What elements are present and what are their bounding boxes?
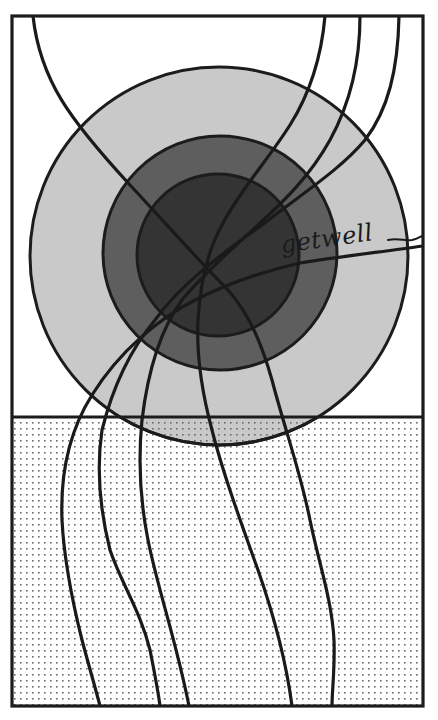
dot-pattern: [12, 417, 423, 706]
getwell-artwork: getwell: [0, 0, 438, 720]
